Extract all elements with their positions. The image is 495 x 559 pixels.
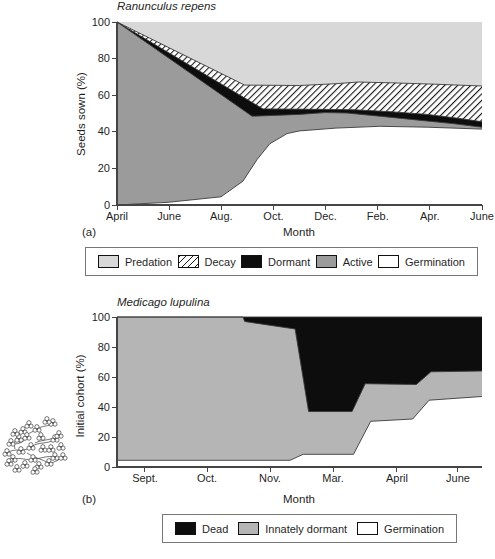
legend-item: Dead [175, 522, 228, 535]
legend-swatch-germination [357, 522, 378, 535]
legend-swatch-dormant [241, 255, 262, 268]
panel-a-y-axis-label: Seeds sown (%) [75, 34, 89, 194]
legend-swatch-decay [178, 255, 199, 268]
legend-label: Decay [205, 256, 236, 268]
x-tick-label: Feb. [348, 210, 408, 223]
legend-item: Active [316, 255, 373, 268]
area-germination [117, 126, 482, 205]
x-tick-label: Dec. [296, 210, 356, 223]
area-dormant [117, 22, 482, 205]
legend-label: Dormant [268, 256, 310, 268]
legend-label: Innately dormant [265, 523, 347, 535]
boundary-germination_top [117, 126, 482, 205]
legend-swatch-predation [98, 255, 119, 268]
legend-swatch-dead [175, 522, 196, 535]
y-tick-label: 0 [80, 199, 110, 212]
panel-a-title: Ranunculus repens [117, 0, 216, 12]
area-dead [117, 317, 482, 467]
x-tick-label: April [367, 472, 427, 485]
x-tick-label: Mar. [303, 472, 363, 485]
x-tick-label: Nov. [240, 472, 300, 485]
legend-item: Germination [357, 522, 444, 535]
x-tick-label: June [452, 210, 495, 223]
plot-area-b [117, 317, 482, 467]
legend-item: Decay [178, 255, 236, 268]
x-tick-label: Apr. [400, 210, 460, 223]
panel-b-title: Medicago lupulina [117, 296, 210, 308]
legend-swatch-innately-dormant [238, 522, 259, 535]
legend-label: Dead [202, 523, 228, 535]
legend-label: Germination [405, 256, 465, 268]
plant-illustration [3, 413, 67, 477]
legend-item: Dormant [241, 255, 310, 268]
plot-area-a [117, 22, 482, 205]
panel-a-letter: (a) [82, 226, 96, 238]
area-germination [117, 397, 482, 468]
x-tick-label: June [139, 210, 199, 223]
legend-label: Predation [125, 256, 172, 268]
panel-b-y-axis-label: Initial cohort (%) [74, 316, 88, 476]
panel-a-legend: PredationDecayDormantActiveGermination [85, 247, 478, 276]
boundary-decay_top [117, 22, 482, 86]
area-innately-dormant [117, 317, 482, 467]
x-tick-label: Oct. [177, 472, 237, 485]
boundary-active_top [117, 22, 482, 127]
x-tick-label: Sept. [115, 472, 175, 485]
x-tick-label: Aug. [191, 210, 251, 223]
legend-label: Active [343, 256, 373, 268]
boundary-dead_bottom [117, 317, 482, 412]
boundary-germination_top [117, 397, 482, 461]
x-tick-label: April [87, 210, 147, 223]
legend-swatch-active [316, 255, 337, 268]
panel-b-legend: DeadInnately dormantGermination [162, 514, 457, 543]
area-predation [117, 22, 482, 205]
legend-label: Germination [384, 523, 444, 535]
boundary-dormant_top [117, 22, 482, 122]
legend-item: Predation [98, 255, 172, 268]
panel-b-letter: (b) [82, 493, 96, 505]
legend-item: Innately dormant [238, 522, 347, 535]
x-tick-label: Oct. [243, 210, 303, 223]
panel-a-x-axis-label: Month [249, 226, 349, 238]
legend-item: Germination [378, 255, 465, 268]
area-decay [117, 22, 482, 205]
figure-seed-fates: Ranunculus repens Seeds sown (%) 0204060… [0, 0, 495, 559]
x-tick-label: June [428, 472, 488, 485]
area-active [117, 22, 482, 205]
plant-sketch [3, 413, 67, 477]
legend-swatch-germination [378, 255, 399, 268]
panel-b-x-axis-label: Month [249, 493, 349, 505]
y-tick-label: 100 [80, 16, 110, 29]
